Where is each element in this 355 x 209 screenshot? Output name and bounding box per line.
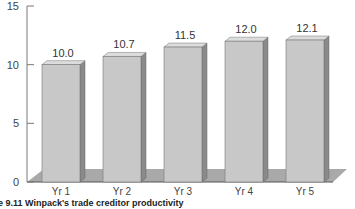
data-label: 12.1 bbox=[296, 22, 317, 34]
data-label: 10.0 bbox=[52, 47, 73, 59]
y-tick-label: 10 bbox=[7, 59, 19, 71]
x-tick-label: Yr 3 bbox=[174, 186, 193, 197]
bar: 12.1 bbox=[286, 22, 329, 182]
bar: 10.7 bbox=[103, 38, 146, 182]
x-axis-labels: Yr 1Yr 2Yr 3Yr 4Yr 5 bbox=[52, 186, 315, 197]
y-tick-label: 0 bbox=[13, 176, 19, 188]
x-tick-label: Yr 4 bbox=[235, 186, 254, 197]
bar: 10.0 bbox=[42, 47, 85, 182]
y-tick-label: 15 bbox=[7, 0, 19, 12]
x-tick-label: Yr 2 bbox=[113, 186, 132, 197]
bar-chart: 051015 10.010.711.512.012.1 Yr 1Yr 2Yr 3… bbox=[0, 0, 355, 209]
data-label: 12.0 bbox=[235, 23, 256, 35]
x-tick-label: Yr 5 bbox=[296, 186, 315, 197]
figure-caption: e 9.11 Winpack's trade creditor producti… bbox=[0, 198, 184, 208]
data-label: 11.5 bbox=[175, 29, 196, 41]
y-axis: 051015 bbox=[7, 0, 34, 188]
bar: 11.5 bbox=[164, 29, 207, 182]
bar: 12.0 bbox=[225, 23, 268, 182]
data-label: 10.7 bbox=[113, 38, 134, 50]
x-tick-label: Yr 1 bbox=[52, 186, 71, 197]
y-tick-label: 5 bbox=[13, 117, 19, 129]
bars: 10.010.711.512.012.1 bbox=[42, 22, 329, 182]
